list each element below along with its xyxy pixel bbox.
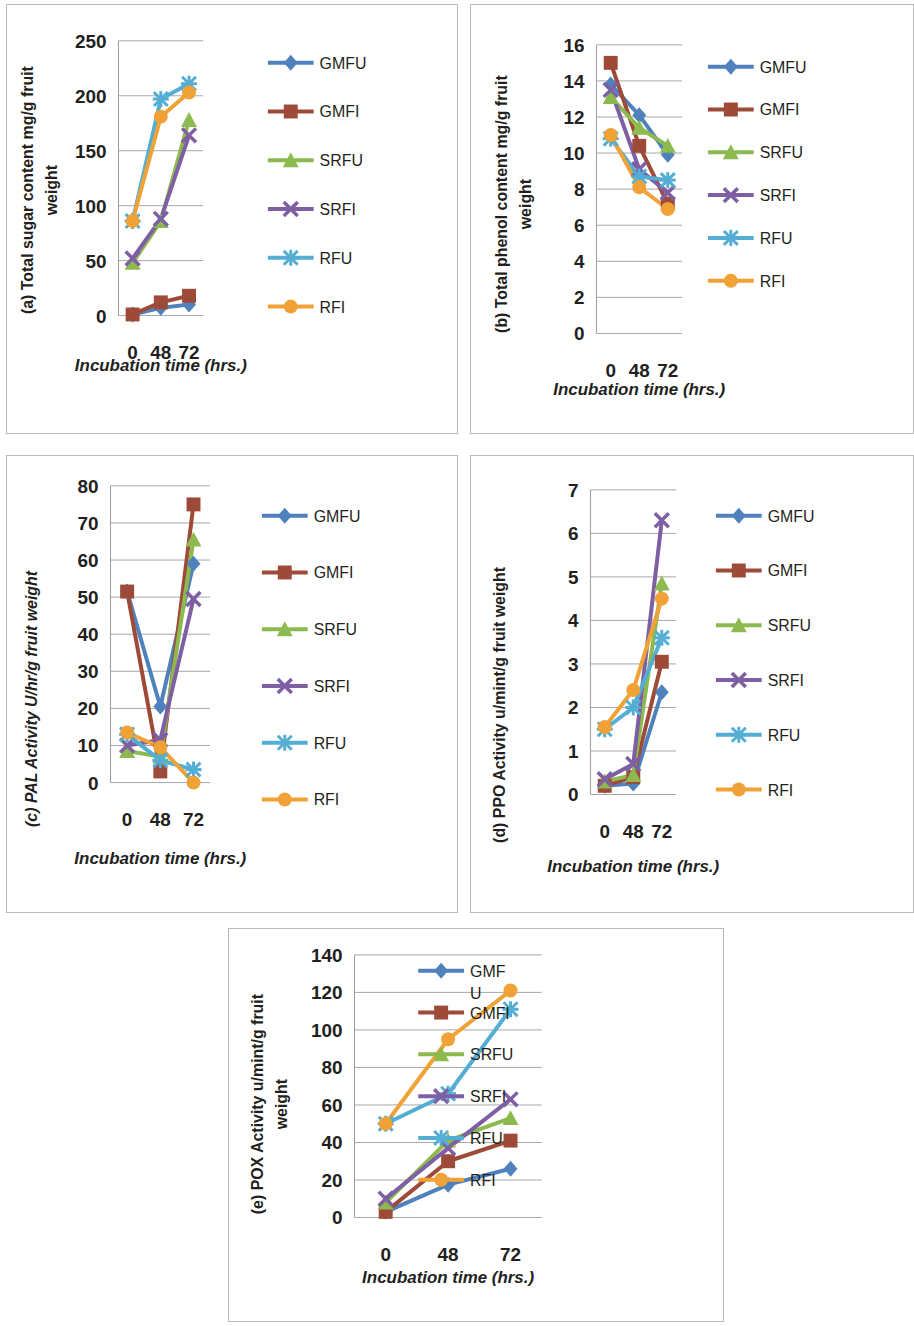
legend-label-RFU: RFU: [768, 727, 801, 744]
y-tick-label: 30: [78, 661, 99, 682]
legend-item-GMFI[interactable]: GMFI: [716, 562, 808, 579]
legend-label-GMFU: GMFU: [320, 55, 367, 72]
y-axis-title-line: weight: [273, 1078, 290, 1130]
x-tick-label: 48: [438, 1244, 459, 1265]
y-tick-label: 0: [96, 306, 107, 327]
data-point-RFU-72: [660, 172, 676, 188]
legend-item-RFI[interactable]: RFI: [262, 791, 339, 808]
data-point-RFI-48: [441, 1032, 455, 1046]
data-point-RFI-72: [655, 592, 669, 606]
data-point-RFI-48: [154, 110, 168, 124]
legend-item-RFU[interactable]: RFU: [716, 727, 800, 744]
legend-item-SRFU[interactable]: SRFU: [716, 617, 811, 634]
legend-label-SRFI: SRFI: [320, 201, 356, 218]
x-tick-label: 0: [380, 1244, 391, 1265]
y-tick-label: 140: [311, 945, 343, 966]
data-point-GMFI-0: [120, 585, 134, 599]
legend-item-RFU[interactable]: RFU: [708, 230, 792, 247]
plot-area: [597, 513, 670, 793]
legend-item-GMFU[interactable]: GMFU: [716, 508, 815, 525]
legend-label-RFI: RFI: [760, 273, 786, 290]
x-axis-title: Incubation time (hrs.): [362, 1268, 534, 1287]
legend-item-RFU[interactable]: RFU: [268, 250, 352, 267]
y-tick-label: 10: [78, 735, 99, 756]
data-point-RFI-72: [661, 202, 675, 216]
y-tick-label: 1: [568, 741, 579, 762]
legend-label-RFI: RFI: [314, 791, 340, 808]
chart-e: 02040608010012014004872Incubation time (…: [229, 929, 723, 1321]
legend-marker-RFI: [724, 274, 738, 288]
data-point-RFU-48: [153, 91, 169, 107]
legend-marker-RFU: [277, 735, 293, 751]
legend-item-RFU[interactable]: RFU: [262, 735, 346, 752]
x-tick-label: 72: [651, 821, 672, 842]
legend-item-RFI[interactable]: RFI: [708, 273, 785, 290]
legend-marker-GMFU: [724, 59, 738, 75]
y-tick-label: 20: [321, 1170, 342, 1191]
legend-label-RFU: RFU: [470, 1130, 503, 1147]
legend-item-GMFU[interactable]: GMFU: [418, 963, 505, 1002]
x-axis-title: Incubation time (hrs.): [547, 857, 719, 876]
chart-panel-b: 024681012141604872Incubation time (hrs.)…: [470, 4, 914, 434]
legend-item-GMFU[interactable]: GMFU: [268, 55, 367, 72]
y-tick-label: 50: [86, 251, 107, 272]
legend-item-GMFU[interactable]: GMFU: [708, 59, 807, 76]
legend-item-GMFU[interactable]: GMFU: [262, 508, 361, 525]
y-tick-label: 40: [321, 1132, 342, 1153]
legend-marker-GMFI: [732, 564, 746, 578]
legend-item-RFI[interactable]: RFI: [716, 782, 793, 799]
chart-a: 05010015020025004872Incubation time (hrs…: [7, 5, 457, 433]
plot-area: [125, 76, 197, 323]
data-point-GMFI-72: [504, 1134, 518, 1148]
legend-item-RFI[interactable]: RFI: [268, 299, 345, 316]
chart-panel-c: 0102030405060708004872Incubation time (h…: [6, 455, 458, 913]
legend-label-GMFU: GMFU: [314, 508, 361, 525]
legend-item-SRFI[interactable]: SRFI: [708, 187, 796, 204]
legend-item-RFU[interactable]: RFU: [418, 1130, 503, 1147]
legend-label-GMFI: GMFI: [314, 564, 354, 581]
legend-label-GMFI: GMFI: [760, 101, 800, 118]
legend-label-SRFU: SRFU: [320, 152, 363, 169]
data-point-GMFI-72: [182, 289, 196, 303]
legend-label-RFI: RFI: [768, 782, 794, 799]
y-tick-label: 2: [574, 287, 585, 308]
data-point-RFU-48: [625, 700, 641, 716]
y-tick-label: 70: [78, 513, 99, 534]
data-point-RFI-0: [604, 128, 618, 142]
y-axis-title-line: (e) POX Activity u/mint/g fruit: [249, 993, 266, 1214]
y-axis-title-line: weight: [43, 164, 60, 216]
x-tick-label: 0: [122, 809, 133, 830]
legend-item-GMFI[interactable]: GMFI: [262, 564, 354, 581]
data-point-GMFI-48: [632, 139, 646, 153]
legend-item-SRFU[interactable]: SRFU: [708, 144, 803, 161]
legend-item-SRFU[interactable]: SRFU: [268, 152, 363, 169]
legend-item-SRFU[interactable]: SRFU: [262, 621, 357, 638]
legend-label-RFU: RFU: [314, 735, 347, 752]
legend-label-SRFU: SRFU: [760, 144, 803, 161]
data-point-RFU-72: [654, 630, 670, 646]
legend-label-SRFI: SRFI: [760, 187, 796, 204]
legend-marker-RFU: [433, 1130, 449, 1146]
legend-label-GMFU: GMFU: [768, 508, 815, 525]
y-tick-label: 250: [75, 31, 107, 52]
x-tick-label: 72: [500, 1244, 521, 1265]
figure-panel-grid: 05010015020025004872Incubation time (hrs…: [0, 0, 914, 1326]
legend-label-GMFI: GMFI: [470, 1005, 510, 1022]
y-tick-label: 16: [563, 35, 584, 56]
x-tick-label: 72: [657, 360, 678, 381]
legend-item-SRFI[interactable]: SRFI: [716, 672, 804, 689]
legend-item-SRFI[interactable]: SRFI: [262, 678, 350, 695]
legend-label-GMFI: GMFI: [320, 103, 360, 120]
legend-item-GMFI[interactable]: GMFI: [708, 101, 800, 118]
legend-marker-RFU: [723, 230, 739, 246]
y-tick-label: 12: [563, 107, 584, 128]
legend-item-GMFI[interactable]: GMFI: [268, 103, 360, 120]
data-point-RFI-0: [379, 1117, 393, 1131]
legend-marker-RFI: [434, 1173, 448, 1187]
legend-label-RFI: RFI: [470, 1172, 496, 1189]
y-tick-label: 0: [88, 773, 99, 794]
legend-item-GMFI[interactable]: GMFI: [418, 1005, 510, 1022]
data-point-GMFI-0: [604, 56, 618, 70]
legend-marker-GMFI: [434, 1006, 448, 1020]
legend-item-SRFI[interactable]: SRFI: [268, 201, 356, 218]
